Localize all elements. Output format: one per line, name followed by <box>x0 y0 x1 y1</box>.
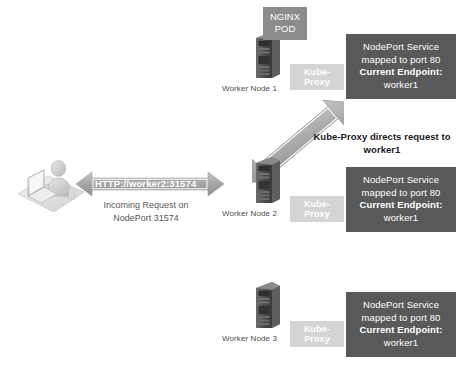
kube-proxy-label-node-1: Kube-Proxy <box>290 64 344 90</box>
nodeport-line2: mapped to port 80 <box>349 312 453 325</box>
nginx-pod-line2: POD <box>269 23 301 35</box>
incoming-request-line1: Incoming Request on <box>66 199 226 212</box>
nginx-pod-line1: NGINX <box>269 11 301 23</box>
routing-note: Kube-Proxy directs request to worker1 <box>302 130 462 156</box>
routing-note-line2: worker1 <box>302 143 462 156</box>
http-url-label: HTTP://worker2:31574 <box>95 178 196 189</box>
diagram-canvas: HTTP://worker2:31574 Incoming Request on… <box>0 0 465 382</box>
nodeport-line4: worker1 <box>349 337 453 350</box>
nodeport-line2: mapped to port 80 <box>349 54 453 67</box>
nodeport-service-box-node-1: NodePort Service mapped to port 80 Curre… <box>346 34 456 99</box>
nodeport-line1: NodePort Service <box>349 174 453 187</box>
kube-proxy-label-node-3: Kube-Proxy <box>290 321 344 347</box>
server-tower-icon <box>250 282 284 330</box>
nodeport-line3: Current Endpoint: <box>349 324 453 337</box>
nodeport-line4: worker1 <box>349 79 453 92</box>
routing-note-line1: Kube-Proxy directs request to <box>302 130 462 143</box>
nodeport-line2: mapped to port 80 <box>349 187 453 200</box>
worker-node-2-caption: Worker Node 2 <box>222 209 277 218</box>
worker-node-3-caption: Worker Node 3 <box>222 334 277 343</box>
kube-proxy-label-node-2: Kube-Proxy <box>290 196 344 222</box>
nodeport-line1: NodePort Service <box>349 41 453 54</box>
nginx-pod-box: NGINX POD <box>263 7 307 40</box>
nodeport-line3: Current Endpoint: <box>349 66 453 79</box>
nodeport-line3: Current Endpoint: <box>349 199 453 212</box>
server-tower-icon <box>250 157 284 205</box>
nodeport-service-box-node-2: NodePort Service mapped to port 80 Curre… <box>346 167 456 232</box>
nodeport-line4: worker1 <box>349 212 453 225</box>
nodeport-service-box-node-3: NodePort Service mapped to port 80 Curre… <box>346 292 456 357</box>
incoming-request-line2: NodePort 31574 <box>66 212 226 225</box>
nodeport-line1: NodePort Service <box>349 299 453 312</box>
worker-node-1-caption: Worker Node 1 <box>222 84 277 93</box>
incoming-request-caption: Incoming Request on NodePort 31574 <box>66 199 226 225</box>
